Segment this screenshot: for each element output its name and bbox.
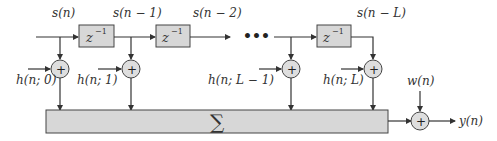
delay-block-1: z −1	[79, 25, 114, 47]
label-w-n: w(n)	[407, 74, 435, 88]
label-s-n-L: s(n − L)	[357, 6, 406, 20]
svg-text:−1: −1	[95, 27, 107, 36]
label-h-0: h(n; 0)	[16, 73, 57, 87]
svg-text:+: +	[416, 115, 426, 129]
label-h-1: h(n; 1)	[77, 73, 118, 87]
ellipsis: •••	[243, 28, 270, 44]
label-y-n: y(n)	[458, 114, 483, 128]
svg-text:z: z	[85, 30, 93, 45]
svg-text:z: z	[161, 30, 169, 45]
channel-block-diagram: s(n) s(n − 1) s(n − 2) s(n − L) z −1 z −…	[0, 0, 497, 141]
svg-text:+: +	[369, 63, 379, 77]
svg-text:+: +	[287, 63, 297, 77]
svg-text:z: z	[322, 30, 330, 45]
svg-text:−1: −1	[171, 27, 183, 36]
svg-text:−1: −1	[332, 27, 344, 36]
label-s-n-1: s(n − 1)	[113, 6, 162, 20]
label-h-L-1: h(n; L − 1)	[208, 73, 274, 87]
delay-block-2: z −1	[156, 25, 190, 47]
svg-text:+: +	[127, 63, 137, 77]
svg-text:∑: ∑	[210, 110, 225, 134]
summation-block: ∑	[46, 110, 388, 134]
wire-dL-to-adderL	[351, 37, 373, 59]
label-s-n: s(n)	[52, 6, 76, 20]
delay-block-L: z −1	[317, 25, 351, 47]
svg-text:+: +	[56, 63, 66, 77]
label-s-n-2: s(n − 2)	[193, 6, 242, 20]
label-h-L: h(n; L)	[323, 73, 364, 87]
